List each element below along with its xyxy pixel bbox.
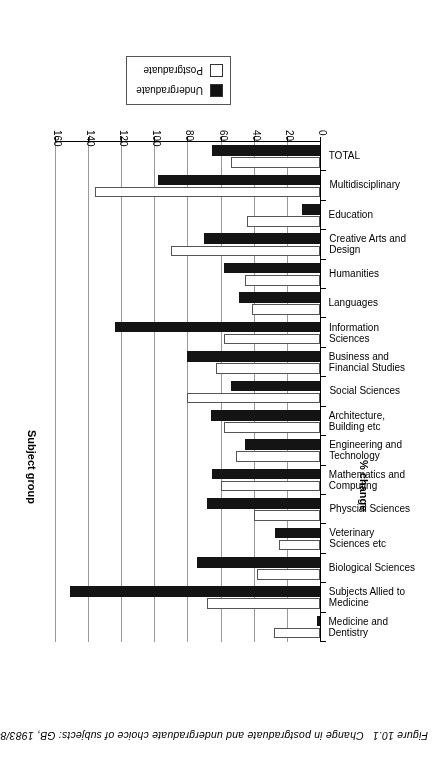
category-axis-label: Creative Arts andDesign: [329, 234, 406, 255]
bar-postgraduate: [221, 481, 320, 492]
bar-postgraduate: [252, 304, 320, 315]
bar-group: Biological Sciences: [56, 554, 321, 583]
category-axis-tick: [321, 347, 326, 348]
category-label-line: Education: [329, 210, 373, 221]
bar-postgraduate: [247, 216, 320, 227]
bar-postgraduate: [236, 451, 320, 462]
bar-group: Humanities: [56, 260, 321, 289]
category-axis-tick: [321, 494, 326, 495]
bar-group: Physcial Sciences: [56, 495, 321, 524]
legend-label-undergraduate: Undergraduate: [136, 85, 203, 96]
bar-postgraduate: [279, 540, 320, 551]
category-axis-label: TOTAL: [329, 151, 360, 162]
bar-group: Engineering andTechnology: [56, 436, 321, 465]
category-axis-label: Social Sciences: [329, 387, 400, 398]
legend-item-undergraduate: Undergraduate: [136, 83, 223, 98]
bar-undergraduate: [70, 586, 320, 597]
category-axis-tick: [321, 523, 326, 524]
figure-number: Figure 10.1: [373, 730, 428, 742]
bar-postgraduate: [231, 157, 320, 168]
category-label-line: Business and: [329, 352, 405, 363]
bar-postgraduate: [188, 393, 321, 404]
category-axis-tick: [321, 612, 326, 613]
bar-postgraduate: [274, 628, 320, 639]
category-label-line: Mathematics and: [329, 470, 405, 481]
category-label-line: Humanities: [329, 269, 379, 280]
bar-undergraduate: [317, 616, 320, 627]
category-axis-label: Mathematics andComputing: [329, 470, 405, 491]
bar-group: Mathematics andComputing: [56, 466, 321, 495]
category-axis-tick: [321, 553, 326, 554]
category-axis-tick: [321, 406, 326, 407]
figure-10-1: Figure 10.1Change in postgraduate and un…: [0, 0, 446, 760]
bar-postgraduate: [224, 422, 320, 433]
category-label-line: Physcial Sciences: [329, 504, 410, 515]
value-axis-tick-label: 40: [251, 130, 262, 141]
figure-caption: Figure 10.1Change in postgraduate and un…: [18, 730, 428, 742]
legend-swatch-undergraduate-icon: [210, 84, 223, 97]
bar-undergraduate: [239, 292, 320, 303]
legend-label-postgraduate: Postgraduate: [144, 65, 204, 76]
category-axis-label: Medicine andDentistry: [329, 617, 388, 638]
category-axis-label: Humanities: [329, 269, 379, 280]
bar-group: TOTAL: [56, 142, 321, 171]
category-axis-label: VeterinarySciences etc: [329, 528, 386, 549]
category-axis-label: Physcial Sciences: [329, 504, 410, 515]
category-axis-tick: [321, 229, 326, 230]
bar-group: Business andFinancial Studies: [56, 348, 321, 377]
bar-undergraduate: [275, 528, 320, 539]
bar-group: VeterinarySciences etc: [56, 524, 321, 553]
bar-undergraduate: [212, 469, 320, 480]
chart-legend: Undergraduate Postgraduate: [126, 56, 231, 105]
value-axis-tick-label: 0: [317, 130, 328, 136]
bar-undergraduate: [245, 439, 320, 450]
bar-group: Creative Arts andDesign: [56, 230, 321, 259]
category-label-line: Building etc: [329, 421, 385, 432]
category-axis-title: Subject group: [26, 430, 38, 504]
bar-undergraduate: [204, 234, 320, 245]
bar-undergraduate: [211, 410, 320, 421]
legend-swatch-postgraduate-icon: [210, 64, 223, 77]
category-label-line: Languages: [329, 298, 379, 309]
category-label-line: Biological Sciences: [329, 563, 415, 574]
category-label-line: Medicine: [329, 598, 405, 609]
category-axis-label: Biological Sciences: [329, 563, 415, 574]
category-axis-tick: [321, 200, 326, 201]
category-label-line: Sciences etc: [329, 539, 386, 550]
category-label-line: Social Sciences: [329, 387, 400, 398]
bar-group: Social Sciences: [56, 377, 321, 406]
category-axis-label: Architecture,Building etc: [329, 411, 385, 432]
bar-postgraduate: [254, 510, 320, 521]
bar-undergraduate: [231, 381, 320, 392]
bar-chart-plot-area: 020406080100120140160Medicine andDentist…: [56, 142, 321, 642]
category-label-line: Sciences: [329, 333, 379, 344]
category-axis-tick: [321, 317, 326, 318]
bar-undergraduate: [207, 498, 320, 509]
category-label-line: Dentistry: [329, 627, 388, 638]
category-axis-tick: [321, 435, 326, 436]
category-label-line: Design: [329, 245, 406, 256]
bar-postgraduate: [257, 569, 320, 580]
bar-undergraduate: [302, 204, 320, 215]
bar-postgraduate: [245, 275, 320, 286]
value-axis-tick-label: 80: [185, 130, 196, 141]
bar-group: Multidisciplinary: [56, 171, 321, 200]
bar-undergraduate: [115, 322, 320, 333]
figure-rotation-wrapper: Figure 10.1Change in postgraduate and un…: [0, 0, 446, 760]
bar-postgraduate: [95, 187, 320, 198]
category-axis-tick: [321, 641, 326, 642]
value-axis-tick-label: 60: [218, 130, 229, 141]
category-axis-tick: [321, 582, 326, 583]
bar-postgraduate: [171, 246, 320, 257]
category-axis-label: Multidisciplinary: [329, 181, 400, 192]
bar-undergraduate: [188, 351, 321, 362]
category-label-line: Technology: [329, 451, 402, 462]
bar-group: Education: [56, 201, 321, 230]
category-label-line: Multidisciplinary: [329, 181, 400, 192]
category-axis-tick: [321, 170, 326, 171]
category-label-line: TOTAL: [329, 151, 360, 162]
category-axis-tick: [321, 465, 326, 466]
bar-group: Subjects Allied toMedicine: [56, 583, 321, 612]
category-axis-label: Business andFinancial Studies: [329, 352, 405, 373]
bar-group: Languages: [56, 289, 321, 318]
